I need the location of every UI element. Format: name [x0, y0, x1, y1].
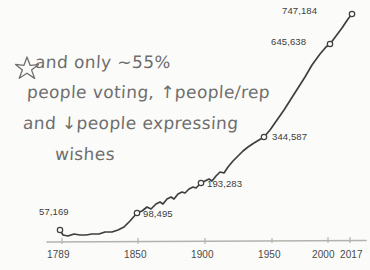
x-tick-label-2017: 2017: [340, 249, 363, 260]
data-label-193283: 193,283: [207, 178, 242, 189]
marker-193283: [198, 180, 203, 185]
x-tick-label-1850: 1850: [124, 249, 147, 260]
x-tick-label-1900: 1900: [191, 249, 214, 260]
x-tick-label-2000: 2000: [312, 249, 335, 260]
annotation-line-1: and only ~55%: [34, 52, 171, 72]
data-label-98495: 98,495: [143, 208, 173, 219]
annotation-line-4: wishes: [54, 144, 115, 164]
x-tick-label-1789: 1789: [47, 249, 70, 260]
marker-747184: [349, 11, 354, 16]
data-label-344587: 344,587: [272, 131, 307, 142]
annotation-line-2: people voting, ↑people/rep: [26, 82, 270, 102]
marker-645638: [327, 41, 332, 46]
annotation-line-3: and ↓people expressing: [22, 113, 239, 133]
marker-344587: [261, 134, 266, 139]
data-label-747184: 747,184: [282, 5, 317, 16]
marker-57169: [57, 227, 62, 232]
x-axis-line: [47, 241, 366, 243]
chart-container: 747,184 645,638 344,587 193,283 98,495 5…: [0, 0, 370, 270]
data-label-57169: 57,169: [39, 206, 69, 217]
x-tick-label-1950: 1950: [258, 249, 281, 260]
data-label-645638: 645,638: [271, 36, 306, 47]
marker-98495: [134, 210, 139, 215]
line-chart-graphic: [0, 0, 370, 270]
